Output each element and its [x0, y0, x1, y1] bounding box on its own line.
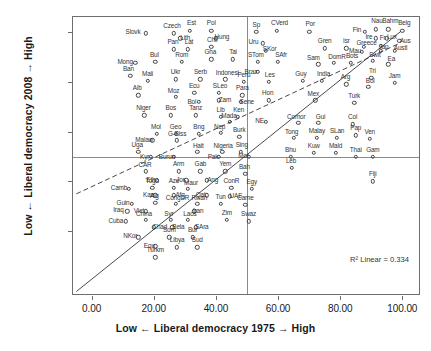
scatter-chart: Low ← Liberal democracy 2008 → High Low … [0, 0, 431, 351]
x-tick-mark [402, 296, 403, 300]
y-tick-mark [68, 231, 72, 232]
y-tick-mark [68, 181, 72, 182]
x-tick-mark [154, 296, 155, 300]
x-tick-label: 80.00 [310, 303, 370, 314]
x-tick-label: 0.00 [62, 303, 122, 314]
x-tick-label: 40.00 [186, 303, 246, 314]
x-tick-label: 20.00 [124, 303, 184, 314]
identity-line [76, 32, 400, 292]
x-tick-mark [340, 296, 341, 300]
x-tick-label: 60.00 [248, 303, 308, 314]
fit-lines-overlay [73, 17, 419, 294]
plot-area: SlovkCzechEstLithPolHungSpCVerdPorFinNau… [72, 16, 420, 295]
y-tick-mark [68, 132, 72, 133]
x-tick-label: 100.00 [372, 303, 431, 314]
x-tick-mark [92, 296, 93, 300]
y-axis-title: Low ← Liberal democracy 2008 → High [22, 16, 34, 256]
y-tick-mark [68, 82, 72, 83]
regression-line [76, 43, 400, 194]
r-squared-annotation: R² Linear = 0.334 [350, 255, 409, 264]
x-axis-title: Low ← Liberal democracy 1975 → High [0, 322, 431, 334]
y-tick-mark [68, 32, 72, 33]
x-tick-mark [278, 296, 279, 300]
x-tick-mark [216, 296, 217, 300]
